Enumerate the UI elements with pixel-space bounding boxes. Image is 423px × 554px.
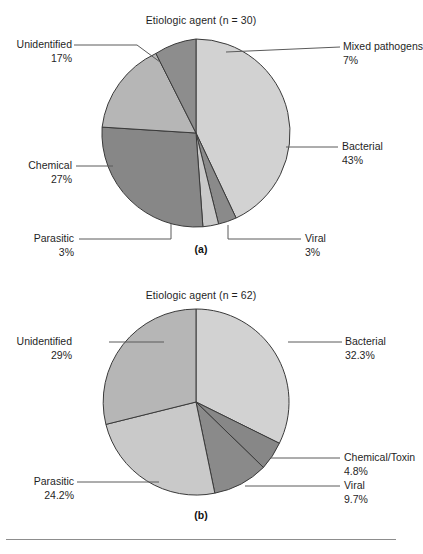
callout-a-mixed-pathogens: Mixed pathogens 7% — [343, 40, 423, 67]
callout-b-viral: Viral 9.7% — [344, 479, 368, 506]
callout-b-unidentified-pct: 29% — [0, 349, 72, 363]
callout-b-parasitic-name: Parasitic — [34, 475, 74, 487]
pie-slice-a-chemical — [102, 127, 203, 227]
callout-a-mixed-pathogens-pct: 7% — [343, 54, 423, 68]
callout-b-unidentified: Unidentified 29% — [0, 335, 72, 362]
callout-a-mixed-pathogens-name: Mixed pathogens — [343, 40, 423, 52]
callout-a-chemical-pct: 27% — [0, 173, 72, 187]
callout-a-unidentified-pct: 17% — [0, 52, 72, 66]
callout-b-bacterial-pct: 32.3% — [345, 349, 386, 363]
callout-b-unidentified-name: Unidentified — [17, 335, 72, 347]
callout-a-bacterial-pct: 43% — [342, 154, 383, 168]
callout-a-bacterial: Bacterial 43% — [342, 140, 383, 167]
callout-a-bacterial-name: Bacterial — [342, 140, 383, 152]
callout-b-chemical-toxin-pct: 4.8% — [344, 465, 415, 479]
leader-line-a-mixed-pathogens — [226, 47, 340, 52]
callout-a-chemical-name: Chemical — [28, 159, 72, 171]
callout-a-chemical: Chemical 27% — [0, 159, 72, 186]
callout-b-bacterial: Bacterial 32.3% — [345, 335, 386, 362]
panel-caption-b: (b) — [0, 509, 402, 521]
panel-caption-a: (a) — [0, 243, 402, 255]
callout-a-unidentified-name: Unidentified — [17, 38, 72, 50]
callout-b-bacterial-name: Bacterial — [345, 335, 386, 347]
figure-bottom-rule — [6, 539, 396, 540]
leader-line-a-parasitic — [79, 224, 171, 239]
panel-a: Etiologic agent (n = 30) Unidentifie — [0, 0, 402, 277]
callout-b-parasitic-pct: 24.2% — [0, 489, 74, 503]
callout-b-viral-pct: 9.7% — [344, 493, 368, 507]
leader-line-a-viral — [228, 225, 301, 239]
callout-b-parasitic: Parasitic 24.2% — [0, 475, 74, 502]
callout-a-unidentified: Unidentified 17% — [0, 38, 72, 65]
callout-b-viral-name: Viral — [344, 479, 365, 491]
callout-b-chemical-toxin: Chemical/Toxin 4.8% — [344, 451, 415, 478]
callout-b-chemical-toxin-name: Chemical/Toxin — [344, 451, 415, 463]
panel-b: Etiologic agent (n = 62) Unidentified 29… — [0, 277, 402, 554]
